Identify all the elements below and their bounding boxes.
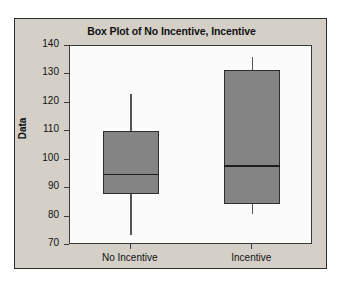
y-tick-label: 80 <box>48 209 59 220</box>
y-tick-label: 100 <box>42 152 59 163</box>
upper-whisker <box>130 94 132 131</box>
y-tick-label: 70 <box>48 237 59 248</box>
y-tick-label: 140 <box>42 38 59 49</box>
lower-whisker <box>130 194 132 235</box>
boxplot-figure: Box Plot of No Incentive, Incentive Data… <box>14 18 327 269</box>
x-tick-label: Incentive <box>191 252 311 263</box>
box-iqr <box>224 70 280 204</box>
median-line <box>224 165 280 167</box>
x-tick-label: No Incentive <box>70 252 190 263</box>
plot-area <box>69 45 312 244</box>
y-tick-label: 130 <box>42 66 59 77</box>
y-tick-label: 90 <box>48 180 59 191</box>
x-tick-mark <box>130 244 131 249</box>
upper-whisker <box>252 57 254 70</box>
box-iqr <box>103 131 159 194</box>
y-axis-label: Data <box>17 84 28 174</box>
chart-title: Box Plot of No Incentive, Incentive <box>15 25 328 37</box>
x-tick-mark <box>251 244 252 249</box>
y-tick-label: 110 <box>43 123 59 134</box>
median-line <box>103 174 159 176</box>
y-tick-mark <box>64 244 69 245</box>
lower-whisker <box>252 204 254 214</box>
y-tick-label: 120 <box>42 95 59 106</box>
